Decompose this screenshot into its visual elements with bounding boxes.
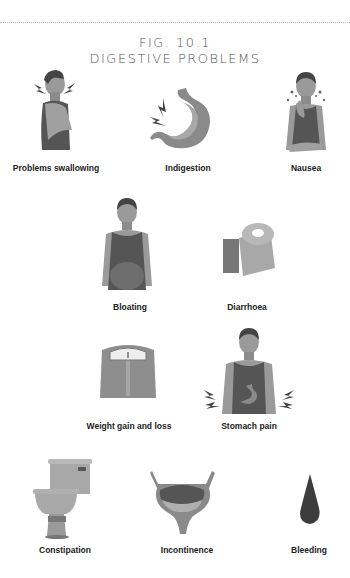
blood-drop-icon <box>0 0 350 578</box>
label-bleeding: Bleeding <box>291 545 327 555</box>
